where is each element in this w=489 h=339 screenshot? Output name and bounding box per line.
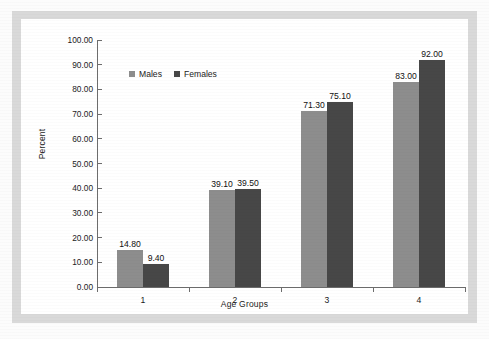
y-axis-tick-label: 80.00: [72, 84, 93, 94]
data-label-females-group-2: 39.50: [225, 178, 271, 188]
bar-females-group-4: [419, 60, 445, 287]
y-axis-tick: 80.00: [21, 84, 107, 94]
x-axis-tick-mark: [189, 287, 190, 292]
x-axis-tick-mark: [465, 287, 466, 292]
y-axis-tick-label: 50.00: [72, 159, 93, 169]
y-axis-tick-label: 20.00: [72, 233, 93, 243]
legend-item-females: Females: [174, 69, 217, 79]
plot-area: Percent 0.0010.0020.0030.0040.0050.0060.…: [21, 19, 468, 314]
y-axis-tick: 40.00: [21, 183, 107, 193]
y-axis-tick-label: 10.00: [72, 257, 93, 267]
y-axis-tick: 30.00: [21, 208, 107, 218]
bar-males-group-2: [209, 190, 235, 287]
y-axis-tick-label: 90.00: [72, 60, 93, 70]
y-axis-tick: 70.00: [21, 109, 107, 119]
y-axis-tick: 0.00: [21, 282, 107, 292]
data-label-males-group-1: 14.80: [107, 239, 153, 249]
legend-label-males: Males: [139, 69, 162, 79]
y-axis-tick-label: 70.00: [72, 109, 93, 119]
bar-females-group-2: [235, 189, 261, 287]
chart-figure: Percent 0.0010.0020.0030.0040.0050.0060.…: [0, 0, 489, 339]
data-label-females-group-3: 75.10: [317, 91, 363, 101]
legend-swatch-females-icon: [174, 71, 180, 77]
y-axis-tick-label: 40.00: [72, 183, 93, 193]
y-axis-tick: 90.00: [21, 60, 107, 70]
bar-females-group-1: [143, 264, 169, 287]
data-label-females-group-1: 9.40: [133, 253, 179, 263]
y-axis-tick: 60.00: [21, 134, 107, 144]
y-axis-tick-label: 0.00: [77, 282, 93, 292]
data-label-females-group-4: 92.00: [409, 49, 455, 59]
y-axis-tick: 20.00: [21, 233, 107, 243]
legend-swatch-males-icon: [129, 71, 135, 77]
bar-males-group-4: [393, 82, 419, 287]
y-axis-tick-label: 100.00: [68, 35, 93, 45]
x-axis-tick-mark: [373, 287, 374, 292]
legend-label-females: Females: [184, 69, 217, 79]
y-axis-tick-label: 60.00: [72, 134, 93, 144]
y-axis-tick: 50.00: [21, 159, 107, 169]
x-axis-title: Age Groups: [21, 299, 468, 309]
y-axis-tick: 10.00: [21, 257, 107, 267]
y-axis-tick-label: 30.00: [72, 208, 93, 218]
bar-males-group-3: [301, 111, 327, 287]
plot-background: Percent 0.0010.0020.0030.0040.0050.0060.…: [21, 19, 468, 314]
legend-item-males: Males: [129, 69, 162, 79]
bar-females-group-3: [327, 102, 353, 287]
x-axis-tick-mark: [281, 287, 282, 292]
chart-legend: Males Females: [129, 69, 217, 79]
figure-frame: Percent 0.0010.0020.0030.0040.0050.0060.…: [12, 11, 477, 323]
x-axis-tick-mark: [97, 287, 98, 292]
y-axis-tick: 100.00: [21, 35, 107, 45]
